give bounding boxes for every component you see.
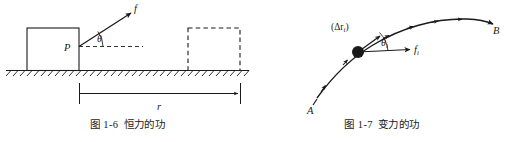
force-label: f: [134, 3, 139, 14]
end-point-label: B: [493, 25, 500, 36]
block-initial-position: [27, 28, 79, 71]
angle-label: θi: [381, 37, 388, 50]
figure-variable-force-canvas: (Δri) θi fi A B: [255, 0, 509, 116]
force-vector-arrow: [79, 13, 131, 47]
figure-1-7-number: 图 1-7: [344, 119, 373, 130]
block-final-position-ghost: [188, 28, 240, 71]
figure-1-6-caption: 图 1-6恒力的功: [0, 116, 255, 131]
point-p-label: P: [63, 42, 71, 53]
figure-1-6-title: 恒力的功: [124, 119, 166, 130]
angle-label: θ: [97, 33, 102, 44]
figure-1-6-number: 图 1-6: [90, 119, 119, 130]
start-point-label: A: [306, 105, 314, 116]
displacement-element-label: (Δri): [331, 22, 349, 34]
figure-1-7-caption: 图 1-7变力的功: [255, 116, 509, 131]
start-tick: [313, 99, 317, 105]
figure-variable-force: (Δri) θi fi A B 图 1-7变力的功: [255, 0, 509, 142]
figure-1-7-title: 变力的功: [378, 119, 420, 130]
figure-constant-force-canvas: f θ P r: [0, 0, 255, 116]
figure-constant-force: f θ P r 图 1-6恒力的功: [0, 0, 255, 142]
displacement-element-vector: [358, 36, 380, 52]
ground-hatching: [6, 71, 249, 77]
displacement-label: r: [157, 101, 162, 112]
force-label: fi: [414, 44, 419, 57]
physics-figure-sheet: f θ P r 图 1-6恒力的功: [0, 0, 509, 142]
